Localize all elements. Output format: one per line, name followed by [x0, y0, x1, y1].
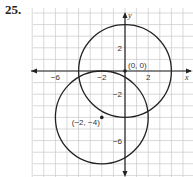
- y-arrow-down-icon: [123, 171, 128, 177]
- y-tick-label: 2: [118, 44, 123, 53]
- origin-point: [123, 69, 127, 73]
- labels: yx−6−222−2−6(0, 0)(−2, −4): [51, 11, 189, 146]
- y-tick-label: −2: [113, 90, 123, 99]
- x-tick-label: 2: [146, 73, 151, 82]
- coordinate-graph: yx−6−222−2−6(0, 0)(−2, −4): [0, 0, 193, 177]
- center-b-point: [100, 116, 104, 120]
- x-tick-label: −2: [97, 73, 107, 82]
- x-axis-label: x: [184, 73, 189, 82]
- origin-label: (0, 0): [128, 61, 147, 70]
- center-b-label: (−2, −4): [72, 118, 100, 127]
- x-tick-label: −6: [51, 73, 61, 82]
- y-axis-label: y: [127, 11, 132, 20]
- y-tick-label: −6: [113, 137, 123, 146]
